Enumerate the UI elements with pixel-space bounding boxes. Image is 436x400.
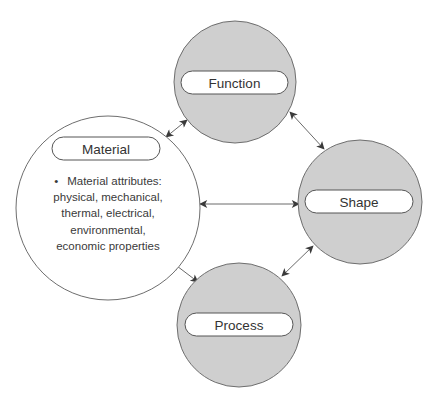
shape-label: Shape xyxy=(339,195,378,210)
arrow-function-shape xyxy=(290,112,324,149)
material-label: Material xyxy=(82,142,130,157)
process-label: Process xyxy=(215,318,264,333)
material-attributes-line-1: •Material attributes: xyxy=(38,173,178,189)
arrow-material-function xyxy=(166,120,187,137)
material-attributes-line-5: economic properties xyxy=(38,238,178,254)
bullet-icon: • xyxy=(54,173,58,189)
arrow-shape-process xyxy=(282,246,313,276)
material-attributes-line-2: physical, mechanical, xyxy=(38,189,178,205)
material-attributes-text: •Material attributes: physical, mechanic… xyxy=(38,173,178,254)
material-attributes-line-4: environmental, xyxy=(38,222,178,238)
node-function[interactable]: Function xyxy=(174,21,296,143)
function-label: Function xyxy=(209,76,261,91)
node-shape[interactable]: Shape xyxy=(298,140,422,264)
node-process[interactable]: Process xyxy=(177,263,301,387)
material-attributes-line-3: thermal, electrical, xyxy=(38,205,178,221)
